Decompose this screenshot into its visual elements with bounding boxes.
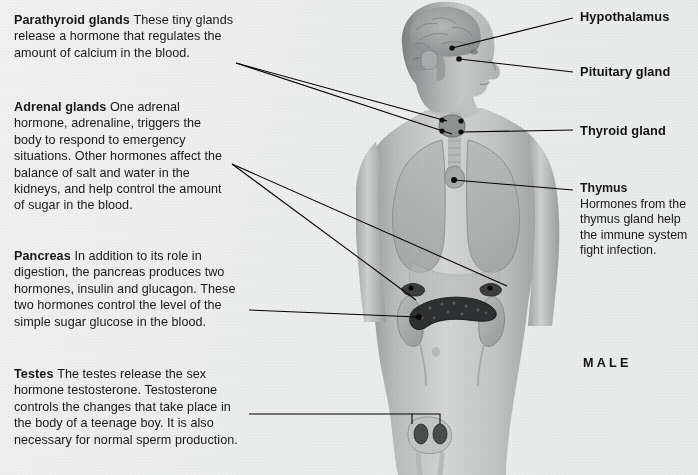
diagram-page: Parathyroid glands These tiny glands rel… [0,0,698,475]
male-endocrine-system-figure [356,0,586,475]
head-profile [402,2,500,113]
label-thymus-body: Hormones from the thymus gland help the … [580,197,687,258]
pancreas-marker [416,314,422,320]
callout-parathyroid: Parathyroid glands These tiny glands rel… [14,12,242,61]
callout-testes-heading: Testes [14,367,57,381]
right-adrenal-marker [487,285,492,290]
callout-adrenal: Adrenal glands One adrenal hormone, adre… [14,99,229,214]
figure-caption-male: MALE [583,356,631,370]
left-adrenal-gland [402,284,425,297]
parathyroid-marker-1 [439,117,444,122]
label-thyroid-gland: Thyroid gland [580,123,666,138]
label-hypothalamus: Hypothalamus [580,9,669,24]
parathyroid-marker-4 [458,129,463,134]
pituitary-marker [456,56,462,62]
parathyroid-marker-3 [439,128,444,133]
label-pituitary-gland: Pituitary gland [580,64,670,79]
parathyroid-marker-2 [458,118,463,123]
label-thymus-block: Thymus Hormones from the thymus gland he… [580,181,692,259]
right-testis [433,424,447,444]
callout-adrenal-heading: Adrenal glands [14,100,110,114]
callout-testes: Testes The testes release the sex hormon… [14,366,242,448]
left-adrenal-marker [408,285,413,290]
left-testis [414,424,428,444]
callout-adrenal-body: One adrenal hormone, adrenaline, trigger… [14,100,222,212]
callout-parathyroid-heading: Parathyroid glands [14,13,133,27]
thymus-marker [451,177,457,183]
label-thymus-heading: Thymus [580,181,692,197]
callout-pancreas: Pancreas In addition to its role in dige… [14,248,236,330]
hypothalamus-marker [449,45,454,50]
callout-pancreas-heading: Pancreas [14,249,74,263]
